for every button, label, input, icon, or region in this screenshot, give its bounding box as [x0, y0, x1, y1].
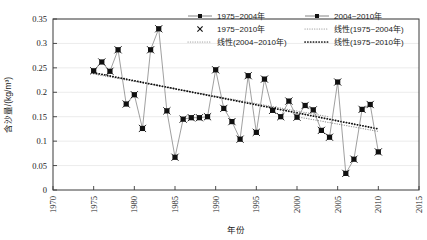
- x-tick-label: 1980: [129, 196, 139, 213]
- x-tick-label: 1990: [211, 196, 221, 213]
- legend-item-label: 1975~2004年: [217, 11, 265, 21]
- legend-item-label: 线性(1975~2004年): [334, 24, 404, 34]
- x-tick-label: 1975: [89, 196, 99, 213]
- legend-item-label: 线性(1975~2010年): [334, 37, 404, 47]
- y-tick-label: 0.2: [36, 87, 47, 97]
- legend-item-label: 线性(2004~2010年): [217, 37, 287, 47]
- x-tick-label: 1995: [251, 196, 261, 213]
- chart-canvas: 00.050.10.150.20.250.30.35 1970197519801…: [0, 0, 427, 240]
- sediment-concentration-chart: 00.050.10.150.20.250.30.35 1970197519801…: [0, 0, 427, 240]
- y-tick-label: 0.05: [32, 161, 47, 171]
- x-tick-label: 2000: [292, 196, 302, 213]
- x-tick-label: 2010: [373, 196, 383, 213]
- legend-swatch-square-marker: [198, 14, 202, 18]
- y-axis-title: 含沙量/(kg/m³): [3, 77, 13, 133]
- legend-item-label: 1975~2010年: [217, 24, 265, 34]
- legend-item-label: 2004~2010年: [334, 11, 382, 21]
- x-tick-label: 2015: [414, 196, 424, 213]
- x-tick-label: 2005: [333, 196, 343, 213]
- y-tick-label: 0.1: [36, 136, 47, 146]
- legend-swatch-square-marker: [315, 14, 319, 18]
- y-tick-label: 0.3: [36, 38, 47, 48]
- x-axis-title: 年份: [227, 225, 245, 235]
- y-tick-label: 0: [43, 185, 47, 195]
- y-tick-label: 0.35: [32, 14, 47, 24]
- y-tick-label: 0.25: [32, 63, 47, 73]
- y-tick-label: 0.15: [32, 112, 47, 122]
- x-tick-label: 1970: [48, 196, 58, 213]
- x-tick-label: 1985: [170, 196, 180, 213]
